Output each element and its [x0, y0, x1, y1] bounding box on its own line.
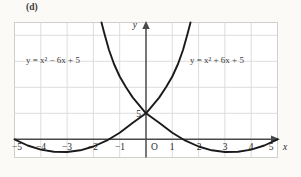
- x-tick-label-1: 1: [170, 142, 175, 152]
- annotation-left-curve-equation: y = x² − 6x + 5: [26, 55, 80, 65]
- y-axis-label: y: [132, 20, 138, 30]
- x-tick-label--1: −1: [115, 142, 125, 152]
- figure-container: (d): [0, 0, 301, 177]
- annotation-right-curve-equation: y = x² + 6x + 5: [190, 55, 244, 65]
- x-tick-label--5: −5: [12, 142, 22, 152]
- chart-svg: −5 −4 −3 −2 −1 1 2 3 4 5 5 O y x: [0, 0, 301, 177]
- y-tick-label-5: 5: [136, 109, 141, 119]
- x-tick-label-5: 5: [269, 142, 274, 152]
- x-tick-label--4: −4: [36, 142, 46, 152]
- x-axis-label: x: [282, 142, 288, 152]
- x-tick-label--2: −2: [88, 142, 98, 152]
- origin-label: O: [151, 142, 158, 152]
- x-tick-label-2: 2: [197, 142, 202, 152]
- x-tick-label-4: 4: [249, 142, 254, 152]
- plot-area: −5 −4 −3 −2 −1 1 2 3 4 5 5 O y x: [0, 0, 301, 177]
- x-tick-label--3: −3: [62, 142, 72, 152]
- x-tick-label-3: 3: [223, 142, 228, 152]
